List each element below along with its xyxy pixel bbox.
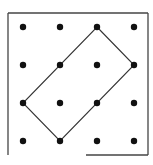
board-frame — [8, 13, 148, 155]
peg-dot — [57, 62, 63, 68]
peg-dot — [131, 24, 137, 30]
peg-dot — [94, 24, 100, 30]
peg-dot — [20, 62, 26, 68]
peg-dot — [57, 138, 63, 144]
peg-dot — [20, 138, 26, 144]
peg-dot — [20, 24, 26, 30]
peg-dot — [94, 138, 100, 144]
peg-dot — [94, 62, 100, 68]
peg-dot — [94, 100, 100, 106]
rectangle-shape — [23, 27, 134, 141]
geoboard-diagram — [0, 0, 153, 165]
peg-grid — [20, 24, 137, 144]
geoboard-canvas — [0, 0, 153, 165]
peg-dot — [131, 62, 137, 68]
peg-dot — [131, 100, 137, 106]
peg-dot — [57, 24, 63, 30]
peg-dot — [57, 100, 63, 106]
rectangle-outline — [23, 27, 134, 141]
peg-dot — [131, 138, 137, 144]
peg-dot — [20, 100, 26, 106]
